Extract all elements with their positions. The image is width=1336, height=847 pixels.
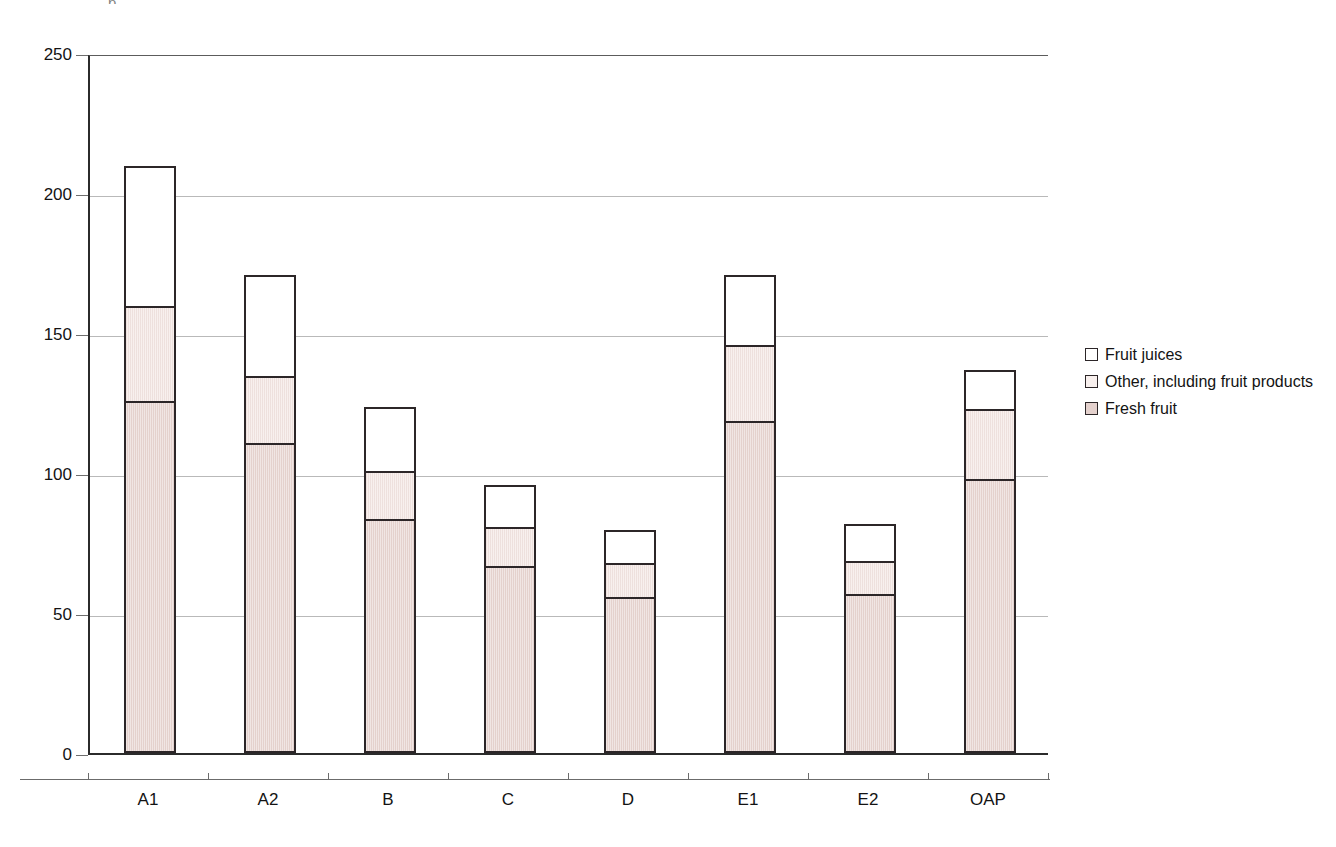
x-axis-tick-label: D <box>568 790 688 810</box>
gridline <box>90 336 1048 337</box>
legend-label: Fresh fruit <box>1105 401 1177 417</box>
y-axis-tick-label: 100 <box>8 465 72 485</box>
x-axis-tick-label: E1 <box>688 790 808 810</box>
gridline <box>90 476 1048 477</box>
fresh-fruit-swatch-icon <box>1085 402 1098 415</box>
bar-segment-other <box>244 376 296 445</box>
clipped-top-text: p <box>108 0 117 4</box>
bar-segment-other <box>964 409 1016 481</box>
x-axis-tick-label: OAP <box>928 790 1048 810</box>
bar-group <box>604 53 656 753</box>
stacked-bar-chart: p 050100150200250 A1A2BCDE1E2OAP Fruit j… <box>0 0 1336 847</box>
y-axis-tick-mark <box>76 335 88 336</box>
legend-item-other-including-fruit-products: Other, including fruit products <box>1085 368 1313 395</box>
x-axis-tick-label: B <box>328 790 448 810</box>
x-axis-tick-mark <box>928 773 929 780</box>
bar-segment-fresh <box>244 443 296 753</box>
bar-segment-other <box>844 561 896 597</box>
y-axis-tick-mark <box>76 755 88 756</box>
x-axis-tick-mark <box>208 773 209 780</box>
y-axis-tick-mark <box>76 195 88 196</box>
gridline <box>90 616 1048 617</box>
bar-segment-juice <box>604 530 656 566</box>
bar-segment-juice <box>364 407 416 473</box>
fruit-juices-swatch-icon <box>1085 348 1098 361</box>
y-axis-tick-label: 50 <box>8 605 72 625</box>
y-axis-tick-label: 250 <box>8 45 72 65</box>
y-axis-tick-label: 150 <box>8 325 72 345</box>
bar-segment-juice <box>724 275 776 347</box>
bar-segment-fresh <box>964 479 1016 753</box>
x-axis-tick-label: E2 <box>808 790 928 810</box>
bar-segment-fresh <box>844 594 896 753</box>
bar-segment-fresh <box>484 566 536 753</box>
bar-segment-fresh <box>364 519 416 753</box>
x-axis-tick-mark <box>328 773 329 780</box>
bar-segment-juice <box>244 275 296 378</box>
bar-segment-fresh <box>724 421 776 753</box>
x-axis-line <box>20 779 1050 780</box>
bar-segment-other <box>604 563 656 599</box>
bar-segment-juice <box>484 485 536 529</box>
bar-segment-juice <box>964 370 1016 411</box>
x-axis-tick-mark <box>568 773 569 780</box>
bar-segment-other <box>364 471 416 521</box>
bar-segment-juice <box>124 166 176 308</box>
y-axis-tick-label: 0 <box>8 745 72 765</box>
chart-legend: Fruit juices Other, including fruit prod… <box>1085 341 1313 422</box>
bar-group <box>724 53 776 753</box>
x-axis-tick-mark <box>688 773 689 780</box>
x-axis-tick-label: A2 <box>208 790 328 810</box>
x-axis-tick-mark <box>1048 773 1049 780</box>
bar-segment-other <box>124 306 176 403</box>
bar-segment-fresh <box>124 401 176 753</box>
x-axis-tick-mark <box>808 773 809 780</box>
other-products-swatch-icon <box>1085 375 1098 388</box>
bar-segment-fresh <box>604 597 656 753</box>
plot-area <box>88 55 1048 755</box>
bar-group <box>484 53 536 753</box>
legend-item-fruit-juices: Fruit juices <box>1085 341 1313 368</box>
y-axis-tick-mark <box>76 475 88 476</box>
legend-label: Other, including fruit products <box>1105 374 1313 390</box>
y-axis-tick-mark <box>76 615 88 616</box>
bar-group <box>964 53 1016 753</box>
bar-group <box>364 53 416 753</box>
bar-group <box>844 53 896 753</box>
legend-item-fresh-fruit: Fresh fruit <box>1085 395 1313 422</box>
y-axis-tick-mark <box>76 55 88 56</box>
gridline <box>90 196 1048 197</box>
y-axis-tick-label: 200 <box>8 185 72 205</box>
bar-segment-juice <box>844 524 896 562</box>
x-axis-tick-label: A1 <box>88 790 208 810</box>
x-axis-tick-mark <box>88 773 89 780</box>
bar-group <box>124 53 176 753</box>
x-axis-tick-mark <box>448 773 449 780</box>
bar-segment-other <box>484 527 536 568</box>
legend-label: Fruit juices <box>1105 347 1182 363</box>
bar-segment-other <box>724 345 776 423</box>
x-axis-tick-label: C <box>448 790 568 810</box>
bar-group <box>244 53 296 753</box>
